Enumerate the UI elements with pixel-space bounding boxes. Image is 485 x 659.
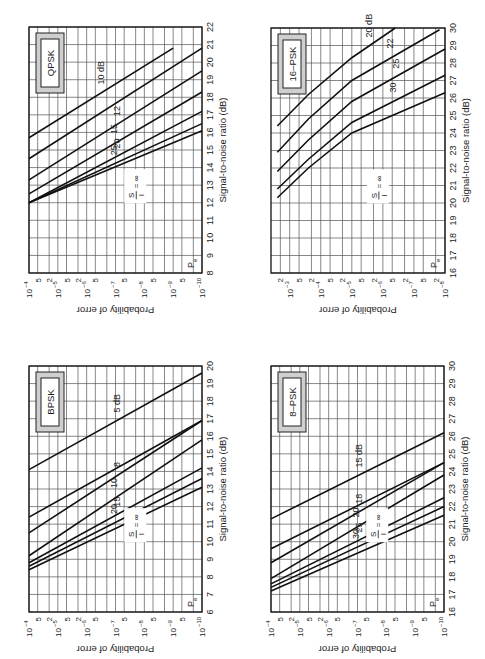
svg-text:14: 14 — [205, 466, 215, 476]
curve-label: 10 — [109, 478, 119, 488]
svg-text:27: 27 — [448, 75, 458, 85]
svg-text:29: 29 — [448, 40, 458, 50]
svg-text:16: 16 — [448, 268, 458, 278]
svg-text:25: 25 — [447, 449, 457, 459]
svg-text:5: 5 — [149, 277, 158, 282]
svg-text:17: 17 — [448, 250, 458, 260]
svg-text:−8: −8 — [380, 619, 386, 627]
svg-text:10: 10 — [169, 627, 178, 636]
y-axis-label: Probability of error — [319, 305, 397, 316]
curve-label: 25 — [354, 523, 364, 533]
svg-text:19: 19 — [205, 75, 215, 85]
svg-text:−5: −5 — [346, 280, 352, 288]
si-infinity-label: SI= ∞ — [124, 169, 146, 203]
si-infinity-label: SI= ∞ — [367, 170, 389, 204]
modulation-title: BPSK — [45, 389, 56, 415]
svg-text:S: S — [370, 193, 379, 198]
svg-text:5: 5 — [362, 616, 371, 621]
svg-text:10: 10 — [411, 627, 420, 636]
svg-text:11: 11 — [205, 216, 215, 225]
svg-text:10: 10 — [348, 288, 357, 297]
curve-label: 8 — [112, 462, 122, 467]
svg-text:5: 5 — [419, 277, 428, 282]
svg-text:5: 5 — [91, 616, 100, 621]
svg-text:10: 10 — [83, 627, 92, 636]
y-tick-labels: 210−35210−45210−55210−65210−75210−8 — [276, 277, 450, 297]
si-infinity-label: SI= ∞ — [366, 508, 388, 542]
svg-text:5: 5 — [420, 616, 429, 621]
svg-text:25: 25 — [448, 110, 458, 120]
svg-text:I: I — [380, 194, 389, 196]
svg-text:−4: −4 — [315, 280, 321, 288]
svg-text:−4: −4 — [265, 619, 271, 627]
svg-text:10: 10 — [54, 288, 63, 297]
svg-text:−8: −8 — [439, 280, 445, 288]
modulation-title-box: 16–PSK — [278, 34, 306, 94]
pe-label: P — [186, 601, 196, 607]
svg-text:5: 5 — [63, 277, 72, 282]
svg-text:12: 12 — [205, 502, 215, 512]
svg-text:10: 10 — [379, 288, 388, 297]
chart-qpsk: 891011121314151617181920212210−45210−552… — [0, 0, 243, 320]
svg-text:10: 10 — [441, 288, 450, 297]
svg-text:18: 18 — [205, 396, 215, 406]
svg-text:5: 5 — [34, 616, 43, 621]
svg-text:10: 10 — [317, 288, 326, 297]
pe-label: P — [428, 601, 438, 607]
y-axis-label: Probability of error — [77, 305, 155, 316]
svg-text:−4: −4 — [23, 619, 29, 627]
svg-text:18: 18 — [205, 92, 215, 102]
svg-text:I: I — [137, 194, 146, 196]
svg-text:10: 10 — [440, 627, 449, 636]
svg-text:15: 15 — [205, 145, 215, 155]
svg-text:−10: −10 — [438, 616, 444, 627]
y-axis-label: Probability of error — [77, 644, 155, 655]
svg-text:11: 11 — [205, 519, 215, 528]
svg-text:10: 10 — [169, 288, 178, 297]
x-axis-label: Signal-to-noise ratio (dB) — [459, 436, 470, 541]
svg-text:13: 13 — [205, 180, 215, 190]
svg-text:19: 19 — [447, 554, 457, 564]
svg-text:10: 10 — [112, 627, 121, 636]
svg-text:22: 22 — [447, 502, 457, 512]
svg-text:= ∞: = ∞ — [374, 514, 383, 527]
x-tick-labels: 161718192021222324252627282930 — [447, 361, 457, 617]
svg-text:10: 10 — [267, 627, 276, 636]
svg-text:10: 10 — [325, 627, 334, 636]
svg-text:−8: −8 — [138, 619, 144, 627]
svg-text:−7: −7 — [110, 280, 116, 288]
modulation-title-box: 8–PSK — [278, 372, 306, 432]
curve-label: 20 — [351, 508, 361, 518]
svg-text:−9: −9 — [167, 619, 173, 627]
svg-text:5: 5 — [120, 277, 129, 282]
svg-text:19: 19 — [448, 215, 458, 225]
svg-text:−5: −5 — [294, 619, 300, 627]
curve-label: 15 — [109, 124, 119, 134]
svg-text:10: 10 — [25, 288, 34, 297]
svg-text:−9: −9 — [409, 619, 415, 627]
svg-text:5: 5 — [388, 277, 397, 282]
svg-text:10: 10 — [112, 288, 121, 297]
svg-text:21: 21 — [448, 180, 458, 190]
svg-text:24: 24 — [448, 128, 458, 138]
svg-text:−7: −7 — [110, 619, 116, 627]
svg-text:−6: −6 — [323, 619, 329, 627]
chart-16psk-svg: 161718192021222324252627282930210−35210−… — [242, 0, 485, 320]
y-tick-labels: 10−45210−55210−6510−7510−8510−9510−10 — [265, 616, 449, 637]
svg-text:14: 14 — [205, 163, 215, 173]
svg-text:8: 8 — [205, 574, 215, 579]
svg-text:e: e — [434, 597, 440, 601]
svg-text:−4: −4 — [23, 280, 29, 288]
svg-text:−7: −7 — [352, 619, 358, 627]
curve-label: 10 dB — [96, 61, 106, 85]
svg-text:28: 28 — [447, 396, 457, 406]
svg-text:10: 10 — [83, 288, 92, 297]
rotated-page: 6789101112131415161718192010−45210−55210… — [0, 0, 485, 659]
svg-text:23: 23 — [447, 484, 457, 494]
svg-text:13: 13 — [205, 484, 215, 494]
svg-text:21: 21 — [205, 40, 215, 50]
svg-text:23: 23 — [448, 145, 458, 155]
y-axis-label: Probability of error — [319, 644, 397, 655]
svg-text:5: 5 — [91, 277, 100, 282]
svg-text:10: 10 — [25, 627, 34, 636]
